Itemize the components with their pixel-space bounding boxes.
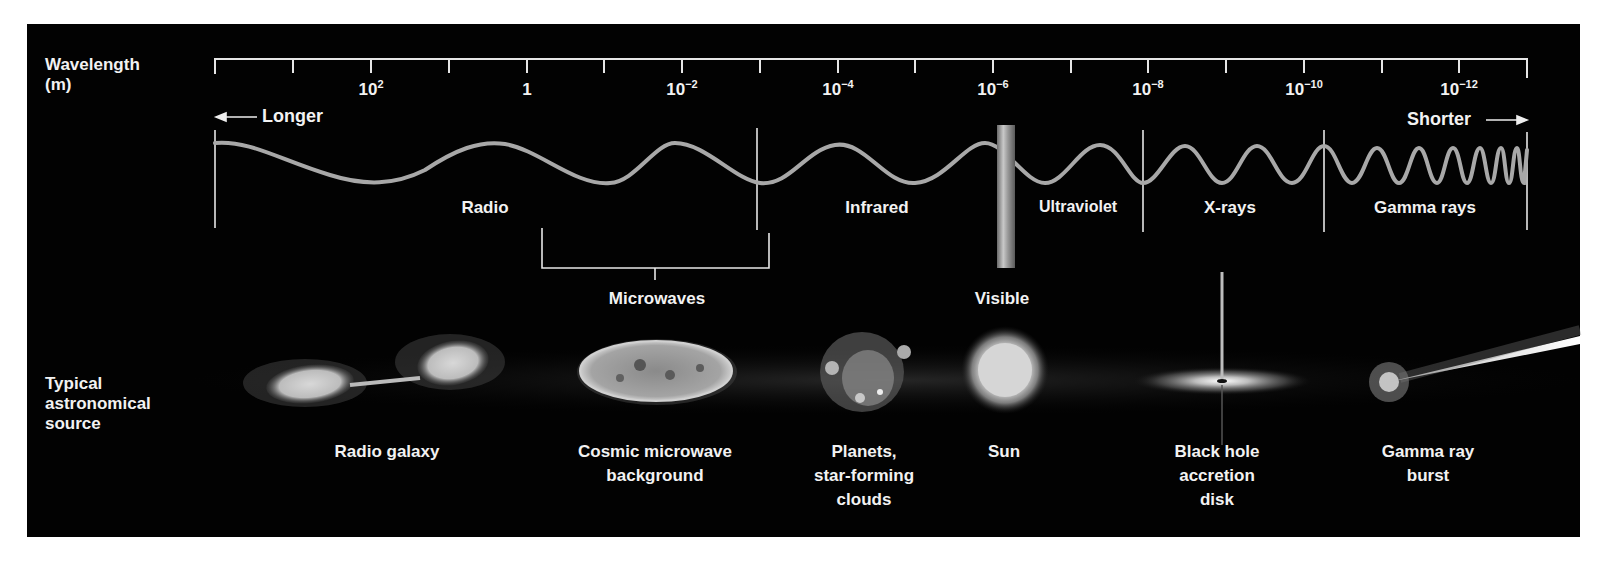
band-radio: Radio <box>461 198 508 218</box>
microwaves-bracket <box>542 228 769 280</box>
band-ultraviolet: Ultraviolet <box>1039 198 1117 216</box>
tick-label-1e-12: 10−12 <box>1440 78 1478 100</box>
axis-title-unit: (m) <box>45 75 140 95</box>
band-visible: Visible <box>975 289 1030 309</box>
band-infrared: Infrared <box>845 198 908 218</box>
sun-icon <box>961 326 1049 414</box>
cmb-icon <box>577 339 737 405</box>
source-row-label-line1: Typical <box>45 374 151 394</box>
tick-label-1e-2: 10−2 <box>666 78 697 100</box>
source-black-hole: Black hole accretion disk <box>1174 440 1259 512</box>
source-gamma-ray-burst: Gamma ray burst <box>1382 440 1475 488</box>
band-x-rays: X-rays <box>1204 198 1256 218</box>
tick-label-1e-6: 10−6 <box>977 78 1008 100</box>
source-row-label-line3: source <box>45 414 151 434</box>
tick-label-1e-8: 10−8 <box>1132 78 1163 100</box>
wavelength-wave <box>215 143 1527 183</box>
spectrum-graphics <box>0 0 1606 577</box>
tick-label-1: 1 <box>522 78 531 100</box>
longer-label: Longer <box>262 106 323 127</box>
tick-label-1e-4: 10−4 <box>822 78 853 100</box>
band-gamma-rays: Gamma rays <box>1374 198 1476 218</box>
source-radio-galaxy: Radio galaxy <box>335 440 440 464</box>
source-planets-clouds: Planets, star-forming clouds <box>814 440 914 512</box>
longer-arrow-icon <box>216 113 257 121</box>
source-sun: Sun <box>988 440 1020 464</box>
shorter-arrow-icon <box>1486 116 1527 124</box>
axis-title: Wavelength (m) <box>45 55 140 95</box>
tick-label-1e2: 102 <box>358 78 383 100</box>
tick-label-1e-10: 10−10 <box>1285 78 1323 100</box>
source-row-label-line2: astronomical <box>45 394 151 414</box>
visible-band <box>997 125 1015 268</box>
band-microwaves: Microwaves <box>609 289 705 309</box>
source-cmb: Cosmic microwave background <box>578 440 732 488</box>
axis-title-line1: Wavelength <box>45 55 140 75</box>
shorter-label: Shorter <box>1407 109 1471 130</box>
wavelength-ruler <box>215 58 1527 78</box>
source-row-label: Typical astronomical source <box>45 374 151 434</box>
